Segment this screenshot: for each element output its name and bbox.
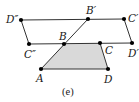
label-C2: C″ xyxy=(24,48,36,60)
shaded-trapezoid-abcd xyxy=(41,43,108,69)
geometry-figure: D″ B′ C′ C″ B C D′ A D (e) xyxy=(0,0,139,102)
label-D: D xyxy=(103,73,113,85)
label-A: A xyxy=(35,72,44,84)
label-B1: B′ xyxy=(85,4,97,16)
segment-D2-C2 xyxy=(21,20,29,44)
point-D xyxy=(106,67,110,71)
point-B1 xyxy=(86,17,90,21)
point-B xyxy=(62,42,66,46)
label-D2: D″ xyxy=(5,13,18,25)
point-D1 xyxy=(130,41,134,45)
segment-C2-D1 xyxy=(29,43,132,44)
point-A xyxy=(39,67,43,71)
label-C: C xyxy=(105,44,113,56)
point-C1 xyxy=(122,17,126,21)
point-C2 xyxy=(27,42,31,46)
point-D2 xyxy=(19,18,23,22)
point-C xyxy=(98,41,102,45)
label-D1: D′ xyxy=(127,47,139,59)
label-B: B xyxy=(58,30,67,42)
segment-D2-C1 xyxy=(21,19,124,20)
label-C1: C′ xyxy=(128,12,139,24)
figure-caption: (e) xyxy=(62,86,74,98)
